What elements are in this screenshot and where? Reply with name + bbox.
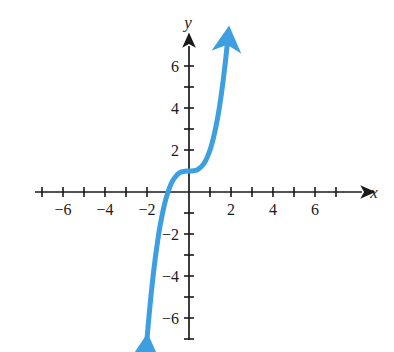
x-tick-label: 6 [311, 201, 319, 218]
y-axis-label: y [182, 13, 192, 32]
x-tick-label: −4 [96, 201, 113, 218]
figure-canvas: −6−4−2246 642−2−4−6 x y [0, 0, 394, 352]
y-tick-label: 2 [171, 142, 179, 159]
y-tick-label: −6 [162, 310, 179, 327]
x-tick-label: −6 [54, 201, 71, 218]
y-tick-label: 4 [171, 100, 179, 117]
cubic-curve [146, 44, 227, 352]
x-tick-label: 4 [269, 201, 277, 218]
x-tick-label: −2 [138, 201, 155, 218]
x-tick-label: 2 [227, 201, 235, 218]
y-tick-label: −4 [162, 268, 179, 285]
x-axis-tick-labels: −6−4−2246 [54, 201, 319, 218]
y-tick-label: −2 [162, 226, 179, 243]
cubic-function-plot: −6−4−2246 642−2−4−6 x y [0, 0, 394, 352]
x-axis-label: x [369, 183, 378, 202]
y-tick-label: 6 [171, 58, 179, 75]
